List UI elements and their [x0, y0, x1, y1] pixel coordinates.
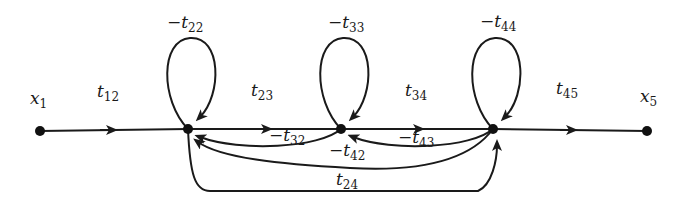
node-4: [488, 124, 498, 134]
label-t24: t24: [336, 171, 358, 191]
label-t44: −t44: [480, 13, 516, 33]
node-x1: [35, 126, 45, 136]
node-2: [183, 124, 193, 134]
label-t33: −t33: [328, 14, 364, 34]
node-x5: [642, 126, 652, 136]
label-x5: x5: [640, 88, 657, 108]
label-x1: x1: [30, 90, 47, 110]
self-loop-t22: [167, 38, 215, 129]
label-t45: t45: [556, 80, 578, 100]
self-loop-t44: [472, 38, 520, 129]
label-t12: t12: [97, 83, 119, 103]
label-t43: −t43: [398, 129, 434, 149]
label-t22: −t22: [167, 14, 203, 34]
node-3: [336, 124, 346, 134]
label-t34: t34: [405, 82, 427, 102]
self-loop-t33: [320, 38, 368, 129]
label-t23: t23: [251, 82, 273, 102]
label-t32: −t32: [269, 127, 305, 147]
label-t42: −t42: [329, 142, 365, 162]
edge-t12: [40, 129, 188, 131]
